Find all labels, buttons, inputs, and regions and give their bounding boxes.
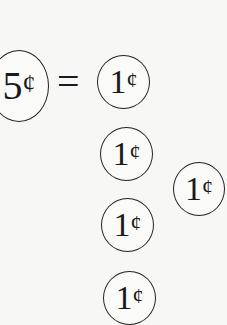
cent-symbol: ¢ [127,69,138,91]
coin-value: 1 [185,172,201,206]
cent-symbol: ¢ [23,71,36,97]
coin-value: 5 [3,66,22,106]
coin-value: 1 [110,65,126,99]
one-cent-coin-4: 1¢ [101,198,154,252]
one-cent-coin-5: 1¢ [103,271,156,325]
one-cent-coin-1: 1¢ [97,55,150,109]
equals-sign: = [57,62,80,102]
one-cent-coin-2: 1¢ [100,127,153,181]
coin-value: 1 [113,137,129,171]
cent-symbol: ¢ [131,212,142,234]
cent-symbol: ¢ [130,141,141,163]
cent-symbol: ¢ [133,285,144,307]
cent-symbol: ¢ [202,176,213,198]
coin-value: 1 [114,208,130,242]
five-cent-coin: 5¢ [0,50,49,122]
coin-value: 1 [116,281,132,315]
one-cent-coin-3: 1¢ [173,162,225,216]
